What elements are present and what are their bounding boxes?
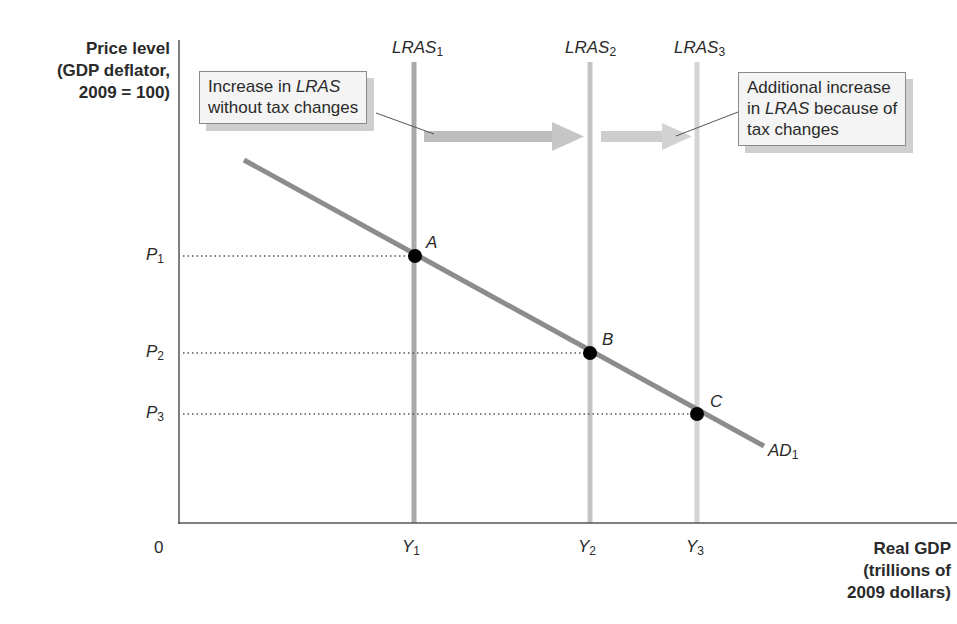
x-axis-title: Real GDP (trillions of 2009 dollars) (847, 538, 951, 604)
p2-base: P (146, 342, 157, 361)
lras1-base: LRAS (392, 38, 436, 57)
lras1-label: LRAS1 (392, 38, 443, 59)
y2-base: Y (578, 537, 589, 556)
p2-sub: 2 (157, 349, 164, 363)
callout-text-em: LRAS (765, 99, 809, 118)
callout-text: because of (809, 99, 897, 118)
lras2-base: LRAS (565, 38, 609, 57)
lras1-sub: 1 (436, 45, 443, 59)
p3-base: P (146, 403, 157, 422)
point-b (583, 346, 597, 360)
point-c-label: C (710, 392, 722, 412)
y2-label: Y2 (578, 537, 596, 558)
p2-label: P2 (146, 342, 164, 363)
p3-label: P3 (146, 403, 164, 424)
callout-left: Increase in LRAS without tax changes (199, 71, 367, 124)
point-a-label: A (426, 233, 437, 253)
lras2-sub: 2 (609, 45, 616, 59)
point-a (408, 249, 422, 263)
y-axis-title-line: (GDP deflator, (57, 60, 170, 82)
ad1-base: AD (768, 441, 792, 460)
ad1-curve (244, 160, 764, 446)
y3-base: Y (686, 537, 697, 556)
y-axis-title-line: 2009 = 100) (57, 82, 170, 104)
callout-text: in (747, 99, 765, 118)
origin-label: 0 (154, 538, 163, 558)
p1-sub: 1 (157, 252, 164, 266)
y1-sub: 1 (413, 544, 420, 558)
x-axis-title-line: Real GDP (847, 538, 951, 560)
callout-right-leader (676, 112, 738, 136)
y3-sub: 3 (697, 544, 704, 558)
shift-arrow-1 (424, 122, 584, 151)
x-axis-title-line: (trillions of (847, 560, 951, 582)
callout-right: Additional increase in LRAS because of t… (738, 72, 906, 146)
callout-left-line1: Increase in LRAS (208, 76, 358, 97)
callout-right-line2: in LRAS because of (747, 98, 897, 119)
y1-label: Y1 (402, 537, 420, 558)
lras2-label: LRAS2 (565, 38, 616, 59)
y2-sub: 2 (589, 544, 596, 558)
y1-base: Y (402, 537, 413, 556)
y3-label: Y3 (686, 537, 704, 558)
ad1-label: AD1 (768, 441, 798, 462)
point-b-label: B (602, 330, 613, 350)
point-c (690, 407, 704, 421)
callout-right-line1: Additional increase (747, 77, 897, 98)
callout-left-line2: without tax changes (208, 97, 358, 118)
callout-text-em: LRAS (296, 77, 340, 96)
p1-base: P (146, 245, 157, 264)
p3-sub: 3 (157, 410, 164, 424)
y-axis-title-line: Price level (57, 38, 170, 60)
lras3-label: LRAS3 (674, 38, 725, 59)
lras3-sub: 3 (718, 45, 725, 59)
callout-left-leader (376, 113, 434, 134)
ad1-sub: 1 (792, 448, 799, 462)
x-axis-title-line: 2009 dollars) (847, 582, 951, 604)
callout-right-line3: tax changes (747, 119, 897, 140)
p1-label: P1 (146, 245, 164, 266)
y-axis-title: Price level (GDP deflator, 2009 = 100) (57, 38, 170, 104)
shift-arrow-2 (601, 123, 692, 150)
lras3-base: LRAS (674, 38, 718, 57)
callout-text: Increase in (208, 77, 296, 96)
